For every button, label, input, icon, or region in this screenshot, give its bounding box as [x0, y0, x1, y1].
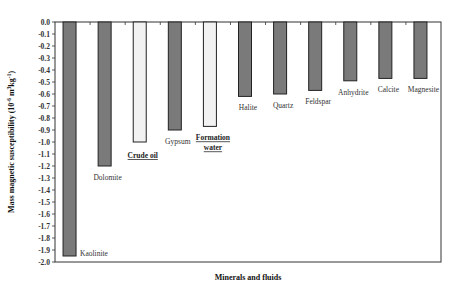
y-tick-label: -0.3 [38, 54, 50, 63]
y-tick-label: -1.4 [38, 186, 50, 195]
bar-gypsum [168, 22, 181, 130]
category-label: Anhydrite [338, 88, 369, 97]
y-tick-label: -0.6 [38, 90, 50, 99]
y-tick-label: -0.2 [38, 42, 50, 51]
bar-quartz [274, 22, 287, 94]
category-label: Calcite [378, 85, 400, 94]
category-label: Formation [196, 133, 231, 142]
bar-anhydrite [344, 22, 357, 81]
bar-crude-oil [133, 22, 146, 142]
x-axis-title: Minerals and fluids [215, 273, 282, 282]
y-tick-label: 0.0 [41, 18, 51, 27]
plot-area: 0.0-0.1-0.2-0.3-0.4-0.5-0.6-0.7-0.8-0.9-… [38, 18, 441, 267]
bar-calcite [379, 22, 392, 78]
bar-dolomite [98, 22, 111, 166]
y-tick-label: -0.4 [38, 66, 50, 75]
bar-chart: 0.0-0.1-0.2-0.3-0.4-0.5-0.6-0.7-0.8-0.9-… [0, 0, 461, 286]
y-tick-label: -1.1 [38, 150, 50, 159]
y-tick-label: -1.5 [38, 198, 50, 207]
category-label: Kaolinite [80, 249, 109, 258]
y-axis-title: Mass magnetic susceptibility (10-6 m3kg-… [6, 71, 16, 214]
category-label: Magnesite [408, 85, 440, 94]
bar-formation-water [203, 22, 216, 126]
y-tick-label: -1.3 [38, 174, 50, 183]
category-label: Halite [239, 103, 258, 112]
bar-magnesite [414, 22, 427, 78]
category-label: Crude oil [128, 151, 158, 160]
y-tick-label: -1.0 [38, 138, 50, 147]
y-tick-label: -1.6 [38, 210, 50, 219]
category-label: Feldspar [305, 97, 331, 106]
y-tick-label: -0.5 [38, 78, 50, 87]
y-tick-label: -1.9 [38, 246, 50, 255]
bar-feldspar [309, 22, 322, 90]
category-label: water [204, 143, 223, 152]
y-tick-label: -0.7 [38, 102, 50, 111]
y-tick-label: -0.9 [38, 126, 50, 135]
y-tick-label: -0.1 [38, 30, 50, 39]
bar-halite [239, 22, 252, 96]
category-label: Dolomite [93, 173, 122, 182]
y-tick-label: -1.8 [38, 234, 50, 243]
category-label: Quartz [273, 101, 294, 110]
category-label: Gypsum [165, 137, 191, 146]
bar-kaolinite [63, 22, 76, 256]
y-tick-label: -1.2 [38, 162, 50, 171]
y-tick-label: -0.8 [38, 114, 50, 123]
y-tick-label: -2.0 [38, 258, 50, 267]
y-tick-label: -1.7 [38, 222, 50, 231]
